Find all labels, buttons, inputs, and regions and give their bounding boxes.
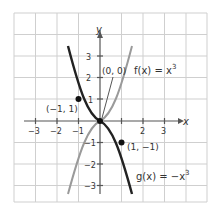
y-tick: −3 [84,182,96,191]
cubic-graph: x y −3 −2 −1 2 3 3 2 1 −1 −2 −3 (−1, 1) … [0,0,217,216]
point-origin [97,118,103,124]
x-tick: −1 [72,127,84,136]
x-axis-label: x [182,116,189,127]
point-label: (−1, 1) [46,104,78,114]
point-1-neg1 [119,140,125,146]
y-tick: −2 [84,161,96,170]
x-tick: −3 [28,127,40,136]
point-label: (0, 0) [102,66,126,76]
y-tick: −1 [84,139,96,148]
y-axis-label: y [95,24,103,35]
y-tick: 1 [88,96,93,105]
y-tick: 3 [86,53,91,62]
x-tick: 2 [140,127,145,136]
x-tick: −2 [50,127,62,136]
point-label: (1, −1) [127,142,159,152]
x-tick: 3 [161,127,166,136]
point-neg1-1 [76,96,82,102]
g-label: g(x) = −x3 [136,169,190,182]
f-label: f(x) = x3 [134,63,176,76]
pointer-line [102,77,113,118]
y-tick: 2 [86,74,91,83]
